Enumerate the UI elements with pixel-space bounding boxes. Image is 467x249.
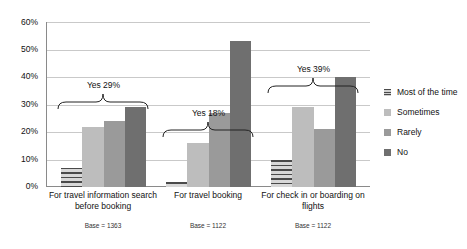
x-axis: For travel information search before boo…	[46, 190, 370, 249]
y-tick-label-20: 20%	[21, 127, 38, 136]
bar-group-check-in-boarding	[271, 22, 356, 187]
x-label-group-2-line1: For travel booking	[158, 190, 258, 201]
bar-chart: 60% 50% 40% 30% 20% 10% 0%	[0, 0, 467, 249]
brace-group-2	[161, 120, 256, 138]
y-tick-label-40: 40%	[21, 72, 38, 81]
annotation-yes-group-1: Yes 29%	[56, 80, 151, 90]
bar-most-of-the-time	[271, 160, 292, 188]
legend: Most of the time Sometimes Rarely No	[384, 82, 464, 162]
bar-group-travel-booking	[166, 22, 251, 187]
legend-swatch-icon-most-of-the-time	[384, 89, 391, 96]
legend-label-rarely: Rarely	[397, 127, 422, 137]
legend-swatch-icon-no	[384, 149, 391, 156]
x-label-group-1-line1: For travel information search	[48, 190, 158, 201]
plot-area: Yes 29% Yes 18% Yes 39%	[46, 22, 370, 187]
bar-rarely	[104, 121, 125, 187]
legend-swatch-icon-rarely	[384, 129, 391, 136]
base-label-group-2: Base = 1122	[158, 222, 258, 230]
y-tick-label-10: 10%	[21, 155, 38, 164]
y-tick-label-60: 60%	[21, 18, 38, 27]
y-tick-label-30: 30%	[21, 100, 38, 109]
base-label-group-1: Base = 1363	[48, 222, 158, 230]
y-axis: 60% 50% 40% 30% 20% 10% 0%	[0, 0, 42, 249]
base-label-group-3: Base = 1122	[257, 222, 369, 230]
legend-item-sometimes[interactable]: Sometimes	[384, 102, 464, 122]
bar-no	[125, 107, 146, 187]
x-label-group-2: For travel booking	[158, 190, 258, 201]
brace-group-1	[56, 92, 151, 110]
bar-sometimes	[292, 107, 313, 187]
legend-item-rarely[interactable]: Rarely	[384, 122, 464, 142]
bar-most-of-the-time	[166, 182, 187, 188]
legend-item-most-of-the-time[interactable]: Most of the time	[384, 82, 464, 102]
bar-rarely	[314, 129, 335, 187]
legend-label-sometimes: Sometimes	[397, 107, 440, 117]
x-label-group-1: For travel information search before boo…	[48, 190, 158, 212]
legend-label-no: No	[397, 147, 408, 157]
annotation-yes-group-3: Yes 39%	[266, 64, 361, 74]
y-tick-label-50: 50%	[21, 45, 38, 54]
x-label-group-3: For check in or boarding on flights	[257, 190, 369, 212]
legend-swatch-icon-sometimes	[384, 109, 391, 116]
x-label-group-3-line1: For check in or boarding on	[257, 190, 369, 201]
brace-group-3	[266, 76, 361, 94]
x-label-group-1-line2: before booking	[48, 201, 158, 212]
legend-label-most-of-the-time: Most of the time	[397, 87, 457, 97]
y-tick-label-0: 0%	[26, 182, 38, 191]
bar-sometimes	[82, 127, 103, 188]
legend-item-no[interactable]: No	[384, 142, 464, 162]
bar-sometimes	[187, 143, 208, 187]
annotation-yes-group-2: Yes 18%	[161, 108, 256, 118]
x-label-group-3-line2: flights	[257, 201, 369, 212]
bar-most-of-the-time	[61, 168, 82, 187]
